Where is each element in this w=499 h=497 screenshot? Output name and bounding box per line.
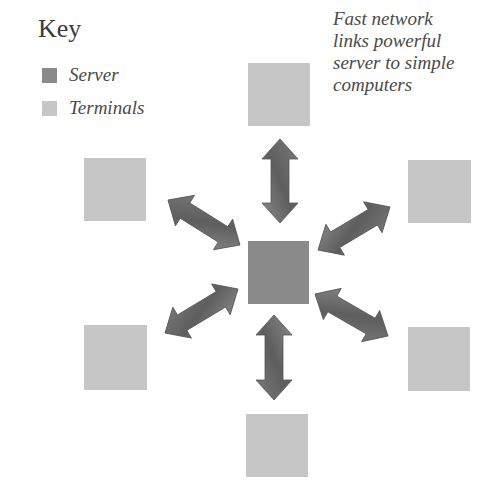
terminal-box-bottom xyxy=(246,414,308,477)
terminal-box-top xyxy=(248,63,310,126)
double-arrow-icon xyxy=(256,315,292,400)
double-arrow-icon xyxy=(156,274,248,349)
double-arrow-icon xyxy=(262,139,298,223)
double-arrow-icon xyxy=(309,192,399,266)
terminal-box-bottom-right xyxy=(408,327,470,391)
terminal-box-top-right xyxy=(408,160,471,223)
terminal-box-bottom-left xyxy=(84,325,147,390)
double-arrow-icon xyxy=(306,278,397,351)
server-box xyxy=(248,241,309,304)
double-arrow-icon xyxy=(158,185,249,261)
terminal-box-top-left xyxy=(84,158,146,221)
